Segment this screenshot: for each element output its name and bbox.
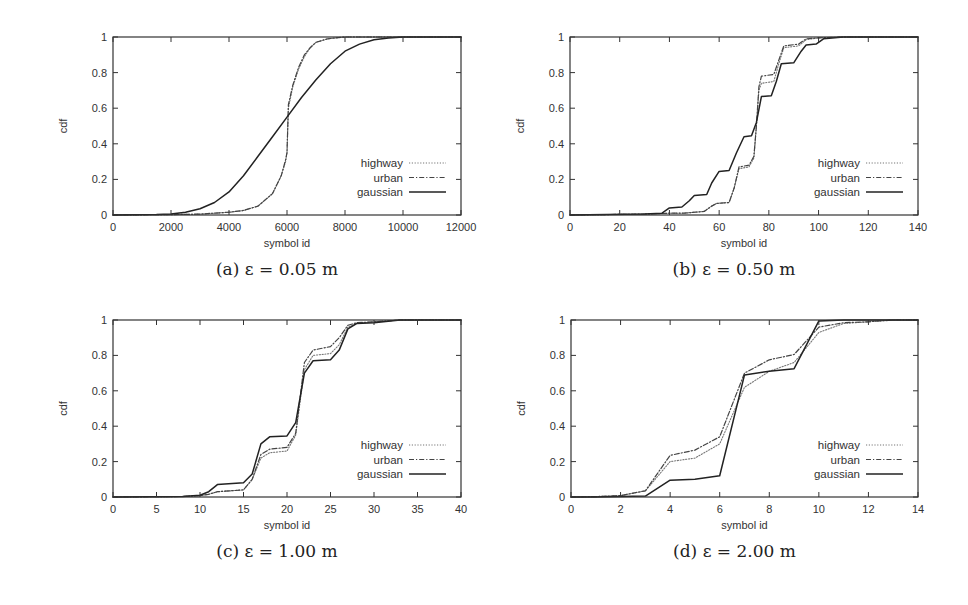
y-axis: 00.20.40.60.81: [92, 31, 461, 221]
y-tick-label: 0.8: [92, 349, 107, 361]
x-tick-label: 0: [110, 503, 116, 515]
x-tick-label: 0: [568, 503, 574, 515]
y-axis: 00.20.40.60.81: [550, 314, 918, 503]
legend-label: urban: [374, 172, 403, 184]
y-tick-label: 0.4: [92, 138, 107, 150]
x-axis: 02468101214: [568, 320, 924, 515]
plot-area: [113, 37, 461, 215]
panel-b: 02040608010012014000.20.40.60.81symbol i…: [514, 31, 927, 279]
x-tick-label: 40: [663, 221, 675, 233]
x-axis: 020406080100120140: [567, 37, 927, 233]
x-tick-label: 20: [281, 503, 293, 515]
legend: highwayurbangaussian: [814, 439, 903, 480]
panel-c: 051015202530354000.20.40.60.81symbol idc…: [57, 314, 467, 561]
x-tick-label: 6: [717, 503, 723, 515]
y-tick-label: 0.6: [550, 385, 565, 397]
x-tick-label: 140: [909, 221, 927, 233]
y-tick-label: 1: [101, 314, 107, 326]
y-tick-label: 0.6: [92, 385, 107, 397]
series-urban-line: [113, 37, 461, 215]
y-tick-label: 0.4: [550, 420, 565, 432]
y-tick-label: 0: [559, 491, 565, 503]
legend-item-highway: highway: [818, 157, 903, 169]
x-tick-label: 6000: [275, 221, 299, 233]
y-tick-label: 0: [558, 209, 564, 221]
x-tick-label: 10: [194, 503, 206, 515]
x-tick-label: 10000: [388, 221, 419, 233]
x-tick-label: 60: [713, 221, 725, 233]
legend-label: urban: [374, 454, 403, 466]
series-urban-line: [570, 37, 918, 215]
y-tick-label: 1: [101, 31, 107, 43]
y-tick-label: 0.2: [92, 456, 107, 468]
y-tick-label: 0.8: [550, 349, 565, 361]
x-tick-label: 2000: [159, 221, 183, 233]
plot-frame: [571, 320, 918, 497]
series-gaussian-line: [570, 37, 918, 215]
x-tick-label: 5: [153, 503, 159, 515]
plot-frame: [113, 320, 461, 497]
y-tick-label: 0.8: [92, 67, 107, 79]
x-tick-label: 15: [237, 503, 249, 515]
legend-label: gaussian: [357, 186, 403, 198]
x-tick-label: 0: [110, 221, 116, 233]
panel-caption: (c) ε = 1.00 m: [216, 541, 337, 561]
legend-item-gaussian: gaussian: [814, 186, 903, 198]
y-axis-label: cdf: [57, 118, 69, 134]
y-tick-label: 0.2: [550, 456, 565, 468]
x-tick-label: 14: [912, 503, 924, 515]
y-tick-label: 0.6: [92, 102, 107, 114]
y-axis-label: cdf: [515, 400, 527, 416]
legend-label: highway: [818, 439, 860, 451]
x-tick-label: 30: [368, 503, 380, 515]
legend: highwayurbangaussian: [357, 157, 446, 198]
legend-label: highway: [361, 157, 403, 169]
plot-area: [571, 320, 918, 497]
x-axis-label: symbol id: [264, 237, 310, 249]
plot-area: [570, 37, 918, 215]
y-tick-label: 0.2: [92, 173, 107, 185]
x-axis-label: symbol id: [264, 519, 310, 531]
x-tick-label: 40: [455, 503, 467, 515]
legend-item-gaussian: gaussian: [814, 468, 903, 480]
y-axis: 00.20.40.60.81: [549, 31, 918, 221]
x-tick-label: 120: [859, 221, 877, 233]
series-gaussian-line: [113, 37, 461, 215]
series-gaussian-line: [571, 320, 918, 497]
x-tick-label: 10: [813, 503, 825, 515]
series-urban-line: [113, 320, 461, 497]
x-tick-label: 4: [667, 503, 673, 515]
x-axis: 020004000600080001000012000: [110, 37, 476, 233]
legend-item-gaussian: gaussian: [357, 468, 446, 480]
series-highway-line: [113, 320, 461, 497]
series-highway-line: [570, 37, 918, 215]
legend-label: highway: [818, 157, 860, 169]
x-axis: 0510152025303540: [110, 320, 467, 515]
plot-area: [113, 320, 461, 497]
y-tick-label: 0: [101, 491, 107, 503]
x-tick-label: 25: [324, 503, 336, 515]
legend: highwayurbangaussian: [357, 439, 446, 480]
x-tick-label: 12: [862, 503, 874, 515]
x-axis-label: symbol id: [721, 519, 767, 531]
x-tick-label: 100: [809, 221, 827, 233]
legend-label: gaussian: [814, 186, 860, 198]
legend-label: urban: [831, 454, 860, 466]
legend-item-highway: highway: [818, 439, 903, 451]
x-tick-label: 8000: [333, 221, 357, 233]
panel-a: 02000400060008000100001200000.20.40.60.8…: [57, 31, 476, 279]
x-tick-label: 4000: [217, 221, 241, 233]
plot-frame: [570, 37, 918, 215]
y-tick-label: 0.2: [549, 173, 564, 185]
series-highway-line: [571, 320, 918, 497]
panel-caption: (a) ε = 0.05 m: [216, 259, 338, 279]
x-tick-label: 2: [618, 503, 624, 515]
legend-item-highway: highway: [361, 157, 446, 169]
y-tick-label: 0: [101, 209, 107, 221]
y-axis: 00.20.40.60.81: [92, 314, 461, 503]
x-tick-label: 0: [567, 221, 573, 233]
x-tick-label: 35: [411, 503, 423, 515]
x-tick-label: 80: [763, 221, 775, 233]
series-urban-line: [571, 320, 918, 497]
series-gaussian-line: [113, 320, 461, 497]
